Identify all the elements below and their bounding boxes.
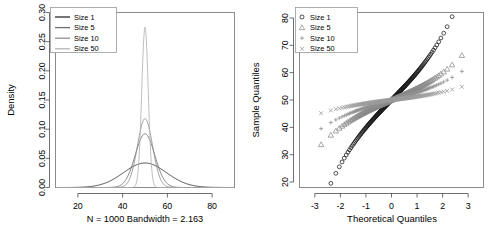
qq-point xyxy=(437,40,441,44)
density-legend: Size 1Size 5Size 10Size 50 xyxy=(51,8,117,54)
density-y-tick-label: 0.00 xyxy=(37,179,47,196)
density-x-tick-label: 20 xyxy=(73,201,83,211)
qq-point xyxy=(459,53,464,58)
qq-legend-label: Size 10 xyxy=(310,34,335,43)
qq-point xyxy=(319,127,323,131)
qq-point xyxy=(318,142,323,147)
density-caption: N = 1000 Bandwidth = 2.163 xyxy=(87,214,203,224)
qq-point xyxy=(334,171,338,175)
density-x-tick-label: 40 xyxy=(118,201,128,211)
qq-point xyxy=(329,181,333,185)
qq-x-tick-label: 3 xyxy=(466,201,471,211)
density-legend-label: Size 50 xyxy=(74,44,99,53)
density-curve xyxy=(56,134,235,188)
qq-point xyxy=(460,69,464,73)
density-y-tick-label: 0.10 xyxy=(37,121,47,138)
density-x-tick-labels: 20406080 xyxy=(73,201,217,211)
qq-y-axis-title: Sample Quantiles xyxy=(250,62,261,137)
qq-point xyxy=(445,89,449,93)
qq-y-tick-label: 50 xyxy=(280,95,290,105)
density-curve xyxy=(56,163,235,188)
qq-x-axis xyxy=(315,194,468,198)
qq-x-tick-label: -3 xyxy=(311,201,319,211)
qq-y-tick-label: 60 xyxy=(280,68,290,78)
density-y-tick-labels: 0.000.050.100.150.200.250.30 xyxy=(37,4,47,196)
density-curve xyxy=(56,119,235,188)
qq-point xyxy=(340,160,344,164)
density-x-axis xyxy=(78,194,212,198)
qq-point xyxy=(445,78,449,82)
qq-y-tick-label: 20 xyxy=(280,177,290,187)
density-x-tick-label: 60 xyxy=(162,201,172,211)
qq-point xyxy=(439,36,443,40)
qq-point xyxy=(329,121,333,125)
qq-point xyxy=(329,108,333,112)
density-y-tick-label: 0.25 xyxy=(37,33,47,50)
density-y-tick-label: 0.20 xyxy=(37,62,47,79)
density-legend-label: Size 1 xyxy=(74,13,95,22)
density-y-tick-label: 0.30 xyxy=(37,4,47,21)
density-y-axis-title: Density xyxy=(5,84,16,116)
qq-y-tick-labels: 20304050607080 xyxy=(280,13,290,187)
qq-point xyxy=(445,25,449,29)
qq-point xyxy=(334,118,338,122)
qq-y-tick-label: 30 xyxy=(280,150,290,160)
qq-y-tick-label: 40 xyxy=(280,122,290,132)
qq-y-axis xyxy=(290,18,294,182)
qq-point xyxy=(449,62,454,67)
qq-x-tick-label: -2 xyxy=(336,201,344,211)
qq-legend-label: Size 5 xyxy=(310,23,331,32)
qq-series xyxy=(319,85,464,115)
qq-plot-svg: 20304050607080 -3-2-10123 Sample Quantil… xyxy=(246,0,492,248)
qq-point xyxy=(450,75,454,79)
qq-legend-label: Size 50 xyxy=(310,44,335,53)
qq-y-tick-label: 80 xyxy=(280,13,290,23)
qq-point xyxy=(450,88,454,92)
qq-point xyxy=(337,165,341,169)
qq-point xyxy=(319,111,323,115)
qq-x-tick-label: 2 xyxy=(440,201,445,211)
qq-x-tick-label: -1 xyxy=(362,201,370,211)
density-y-tick-label: 0.15 xyxy=(37,91,47,108)
qq-legend: Size 1Size 5Size 10Size 50 xyxy=(296,8,358,54)
density-plot-svg: 0.000.050.100.150.200.250.30 20406080 De… xyxy=(0,0,246,248)
density-legend-label: Size 10 xyxy=(74,34,99,43)
qq-x-tick-label: 1 xyxy=(415,201,420,211)
density-plot-panel: 0.000.050.100.150.200.250.30 20406080 De… xyxy=(0,0,246,248)
density-y-tick-label: 0.05 xyxy=(37,150,47,167)
qq-plot-panel: 20304050607080 -3-2-10123 Sample Quantil… xyxy=(246,0,492,248)
density-x-tick-label: 80 xyxy=(207,201,217,211)
qq-point xyxy=(334,107,338,111)
density-legend-label: Size 5 xyxy=(74,23,95,32)
qq-y-tick-label: 70 xyxy=(280,40,290,50)
qq-x-tick-label: 0 xyxy=(389,201,394,211)
qq-point xyxy=(442,31,446,35)
qq-point xyxy=(442,90,446,94)
qq-x-tick-labels: -3-2-10123 xyxy=(311,201,471,211)
qq-legend-label: Size 1 xyxy=(310,13,331,22)
qq-point xyxy=(460,85,464,89)
figure-stage: 0.000.050.100.150.200.250.30 20406080 De… xyxy=(0,0,492,248)
qq-point xyxy=(450,15,454,19)
qq-x-axis-title: Theoretical Quantiles xyxy=(347,213,437,224)
